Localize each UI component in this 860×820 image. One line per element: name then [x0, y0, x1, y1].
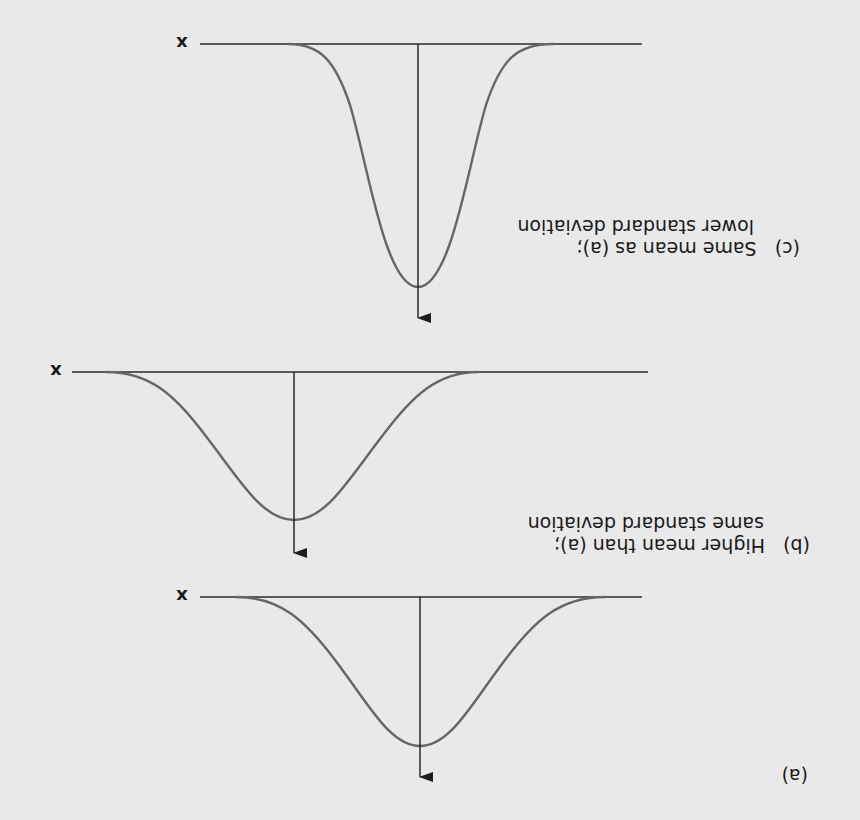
x-axis-label-b: x — [50, 361, 62, 382]
x-axis-label-a: x — [176, 586, 188, 607]
normal-distribution-figure: x x x (c) Same mean as (a); lower standa… — [0, 0, 860, 820]
caption-c-line2: lower standard deviation — [510, 216, 800, 238]
caption-b-line2: same standard deviation — [510, 513, 810, 535]
x-axis-label-c: x — [176, 33, 188, 54]
bell-curve-b — [106, 372, 478, 520]
caption-a-tag: (a) — [782, 765, 808, 787]
caption-a: (a) — [768, 763, 808, 787]
caption-c-line1: Same mean as (a); — [576, 238, 756, 260]
caption-c: (c) Same mean as (a); lower standard dev… — [510, 200, 800, 260]
caption-b-tag: (b) — [783, 535, 810, 557]
caption-b-line1: Higher mean than (a); — [554, 535, 765, 557]
panel-a — [200, 597, 642, 777]
caption-c-tag: (c) — [775, 238, 800, 260]
panel-c — [200, 44, 642, 318]
diagram-canvas — [0, 0, 860, 820]
caption-b: (b) Higher mean than (a); same standard … — [510, 497, 810, 557]
